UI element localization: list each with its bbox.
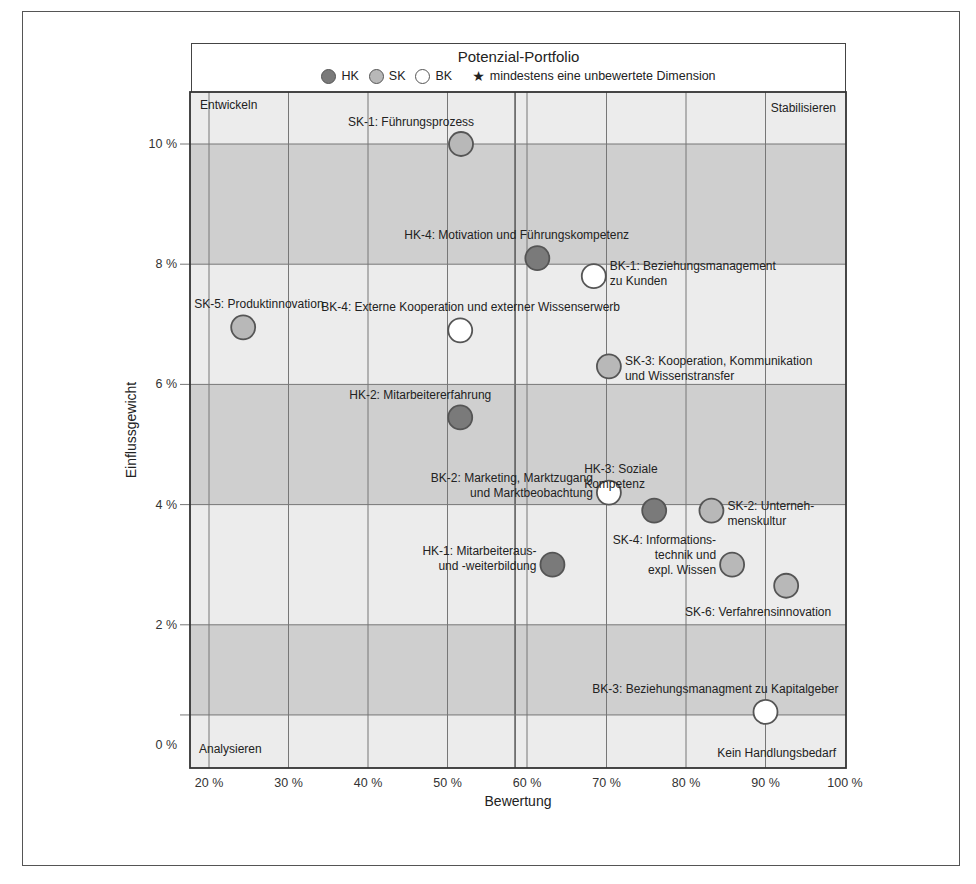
data-point-bk-4 (448, 318, 472, 342)
x-tick-label: 70 % (592, 776, 621, 790)
point-label-hk-1: HK-1: Mitarbeiteraus-und -weiterbildung (422, 544, 536, 573)
x-tick-label: 40 % (354, 776, 383, 790)
x-tick-label: 60 % (513, 776, 542, 790)
data-point-sk-1 (449, 132, 473, 156)
data-point-bk-3 (754, 700, 778, 724)
y-tick-label: 0 % (155, 738, 177, 752)
data-point-sk-2 (699, 499, 723, 523)
x-tick-label: 30 % (274, 776, 303, 790)
quadrant-label-entwickeln: Entwickeln (200, 98, 257, 112)
x-tick-label: 90 % (751, 776, 780, 790)
quadrant-label-stabilisieren: Stabilisieren (771, 101, 836, 115)
y-tick-label: 10 % (149, 137, 178, 151)
x-tick-label: 100 % (827, 776, 862, 790)
y-tick-label: 6 % (155, 377, 177, 391)
quadrant-label-kein-handlungsbedarf: Kein Handlungsbedarf (717, 746, 836, 760)
y-tick-label: 4 % (155, 498, 177, 512)
data-point-hk-1 (540, 553, 564, 577)
point-label-sk-6: SK-6: Verfahrensinnovation (685, 605, 831, 619)
data-point-sk-6 (774, 574, 798, 598)
x-tick-label: 50 % (433, 776, 462, 790)
point-label-bk-4: BK-4: Externe Kooperation und externer W… (321, 300, 620, 314)
data-point-bk-1 (582, 264, 606, 288)
y-axis-title: Einflussgewicht (123, 382, 139, 479)
point-label-hk-4: HK-4: Motivation und Führungskompetenz (404, 228, 629, 242)
plot-area: 20 %30 %40 %50 %60 %70 %80 %90 %100 %0 %… (0, 0, 976, 884)
y-tick-label: 2 % (155, 618, 177, 632)
point-label-sk-5: SK-5: Produktinnovation (194, 297, 323, 311)
x-axis-title: Bewertung (485, 793, 552, 809)
data-point-sk-3 (597, 354, 621, 378)
x-tick-label: 80 % (672, 776, 701, 790)
data-point-hk-4 (525, 246, 549, 270)
data-point-hk-3 (642, 499, 666, 523)
data-point-hk-2 (448, 405, 472, 429)
point-label-hk-2: HK-2: Mitarbeitererfahrung (349, 388, 491, 402)
data-point-sk-4 (720, 553, 744, 577)
x-tick-label: 20 % (195, 776, 224, 790)
data-point-sk-5 (231, 315, 255, 339)
point-label-bk-3: BK-3: Beziehungsmanagment zu Kapitalgebe… (592, 682, 838, 696)
quadrant-label-analysieren: Analysieren (199, 742, 262, 756)
point-label-sk-1: SK-1: Führungsprozess (348, 115, 474, 129)
y-tick-label: 8 % (155, 257, 177, 271)
